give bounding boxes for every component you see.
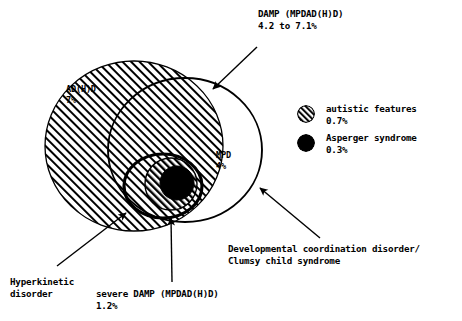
- severe-damp-label-value: 1.2%: [96, 300, 117, 311]
- legend-item-asperger-syndrome: Asperger syndrome0.3%: [297, 132, 457, 161]
- dcd-label-line1: Developmental coordination disorder/: [228, 243, 420, 254]
- venn-diagram-figure: DAMP (MPDAD(H)D)4.2 to 7.1% AD(H)D7% MPD…: [0, 0, 462, 321]
- solid-circle-icon: [297, 134, 315, 152]
- severe-damp-leader-line: [171, 218, 172, 282]
- legend-item-autistic-features-value: 0.7%: [326, 115, 347, 126]
- legend-item-asperger-syndrome-value: 0.3%: [326, 144, 347, 155]
- severe-damp-label-name: severe DAMP (MPDAD(H)D): [96, 288, 219, 299]
- damp-label-name: DAMP (MPDAD(H)D): [258, 8, 343, 19]
- dcd-label-line2: Clumsy child syndrome: [228, 255, 340, 266]
- mpd-label-value: 4%: [216, 161, 226, 171]
- hyperkinetic-label-line2: disorder: [10, 288, 53, 299]
- legend-item-autistic-features: autistic features0.7%: [297, 103, 457, 132]
- hyperkinetic-label: Hyperkineticdisorder: [10, 276, 74, 300]
- dcd-leader-line: [260, 188, 320, 238]
- severe-damp-label: severe DAMP (MPDAD(H)D)1.2%: [96, 288, 219, 312]
- legend-item-asperger-syndrome-text: Asperger syndrome0.3%: [326, 132, 417, 156]
- mpd-label: MPD4%: [216, 150, 231, 173]
- dcd-label: Developmental coordination disorder/Clum…: [228, 243, 420, 267]
- asperger-syndrome-circle: [160, 166, 194, 200]
- mpd-label-name: MPD: [216, 150, 231, 160]
- adhd-label-name: AD(H)D: [66, 84, 96, 94]
- legend: autistic features0.7% Asperger syndrome0…: [297, 103, 457, 161]
- damp-label: DAMP (MPDAD(H)D)4.2 to 7.1%: [258, 8, 343, 32]
- hatched-circle-icon: [297, 105, 315, 123]
- damp-leader-line: [213, 47, 257, 89]
- adhd-label-value: 7%: [66, 95, 76, 105]
- hyperkinetic-label-line1: Hyperkinetic: [10, 276, 74, 287]
- legend-item-asperger-syndrome-label: Asperger syndrome: [326, 132, 417, 143]
- legend-item-autistic-features-text: autistic features0.7%: [326, 103, 417, 127]
- damp-label-value: 4.2 to 7.1%: [258, 20, 317, 31]
- legend-item-autistic-features-label: autistic features: [326, 103, 417, 114]
- adhd-label: AD(H)D7%: [66, 84, 96, 107]
